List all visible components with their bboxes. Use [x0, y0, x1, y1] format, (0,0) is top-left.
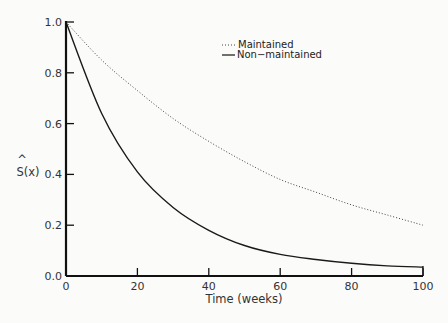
- legend: Maintained Non−maintained: [222, 39, 322, 60]
- survival-chart: 0.00.20.40.60.81.0020406080100 Time (wee…: [0, 0, 448, 323]
- y-axis-title: S(x): [16, 165, 39, 179]
- y-tick-label: 0.4: [45, 168, 63, 181]
- y-tick-label: 0.2: [45, 219, 63, 232]
- y-tick-label: 1.0: [45, 16, 63, 29]
- x-tick-label: 0: [63, 280, 70, 293]
- y-tick-label: 0.6: [45, 118, 63, 131]
- y-tick-label: 0.0: [45, 270, 63, 283]
- x-tick-label: 80: [345, 280, 359, 293]
- x-axis-title: Time (weeks): [205, 292, 283, 306]
- y-tick-label: 0.8: [45, 67, 63, 80]
- legend-label-non-maintained: Non−maintained: [237, 49, 322, 60]
- x-tick-label: 20: [130, 280, 144, 293]
- x-tick-label: 100: [413, 280, 434, 293]
